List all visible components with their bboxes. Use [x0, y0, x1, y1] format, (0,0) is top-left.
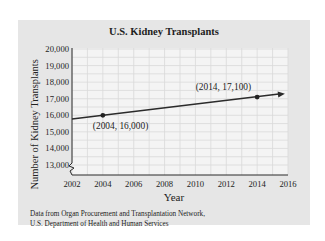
data-point-label: (2014, 17,100) [196, 82, 251, 93]
y-tick-label: 15,000 [45, 127, 69, 137]
x-tick-label: 2002 [63, 179, 80, 189]
y-tick-label: 13,000 [45, 160, 69, 170]
y-tick-label: 14,000 [45, 143, 69, 153]
x-tick-label: 2008 [156, 179, 173, 189]
y-tick-label: 16,000 [45, 110, 69, 120]
y-tick-label: 17,000 [45, 94, 69, 104]
x-tick-label: 2016 [279, 179, 297, 189]
y-tick-label: 20,000 [45, 44, 69, 54]
x-tick-label: 2014 [249, 179, 267, 189]
x-tick-label: 2010 [187, 179, 204, 189]
x-tick-label: 2012 [218, 179, 235, 189]
y-tick-labels: 13,00014,00015,00016,00017,00018,00019,0… [45, 44, 69, 170]
x-tick-label: 2006 [125, 179, 143, 189]
x-tick-label: 2004 [94, 179, 112, 189]
data-point-label: (2004, 16,000) [93, 121, 148, 132]
x-tick-labels: 20022004200620082010201220142016 [63, 179, 297, 189]
data-point-marker [100, 113, 105, 118]
plot-area: 13,00014,00015,00016,00017,00018,00019,0… [0, 0, 325, 241]
y-tick-label: 18,000 [45, 77, 69, 87]
data-point-marker [255, 95, 260, 100]
y-tick-label: 19,000 [45, 61, 69, 71]
